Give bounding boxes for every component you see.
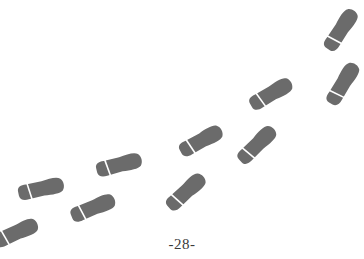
footprint-icon — [68, 191, 118, 225]
footprint-icon — [94, 151, 143, 180]
footprint-icon — [234, 122, 280, 167]
footprint-icon — [176, 122, 225, 160]
footprints-illustration — [0, 0, 364, 259]
footprint-icon — [247, 75, 296, 114]
footprint-icon — [163, 170, 209, 214]
footprint-icon — [17, 175, 66, 202]
footprint-icon — [321, 6, 362, 54]
footprint-icon — [323, 59, 363, 108]
page-number: -28- — [0, 236, 364, 253]
